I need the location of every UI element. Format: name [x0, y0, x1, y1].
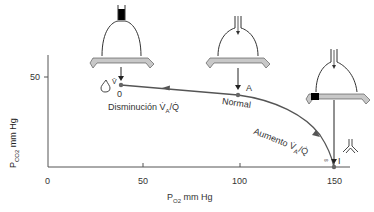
x-tick-50: 50 [138, 176, 148, 186]
decrease-label: Disminución V̇A/Q̇ [108, 102, 179, 114]
alveolus-no-perfusion-icon [306, 49, 370, 164]
point-normal [236, 93, 240, 97]
y-tick-50: 50 [30, 72, 40, 82]
arrow-left-icon [162, 86, 170, 91]
normal-symbol: A [246, 83, 252, 93]
inspired-symbol: I [338, 156, 341, 166]
diagram-canvas [0, 0, 374, 212]
inspired-infinity: ∞ [324, 157, 328, 163]
x-axis-label-sub: O2 [173, 198, 181, 204]
x-axis-label: PO2 mm Hg [167, 192, 213, 204]
decrease-ratio-q: /Q̇ [170, 102, 180, 112]
venous-ratio-zero: 0 [117, 89, 122, 99]
y-axis-label-sub: CO2 [14, 150, 20, 162]
point-venous [119, 83, 123, 87]
point-inspired [332, 165, 336, 169]
x-tick-150: 150 [327, 176, 342, 186]
decrease-text: Disminución [108, 102, 157, 112]
x-tick-0: 0 [45, 176, 50, 186]
x-axis-label-unit: mm Hg [184, 192, 213, 202]
airway-icon [343, 139, 358, 153]
alveolus-blocked-icon [90, 5, 154, 81]
y-axis-label: PCO2 mm Hg [8, 118, 20, 168]
x-tick-100: 100 [232, 176, 247, 186]
y-axis-label-main: P [8, 162, 18, 168]
alveolus-normal-icon [206, 16, 270, 90]
venous-symbol: V̄ [112, 78, 117, 85]
drop-icon [101, 80, 110, 92]
y-axis-label-unit: mm Hg [8, 118, 18, 147]
